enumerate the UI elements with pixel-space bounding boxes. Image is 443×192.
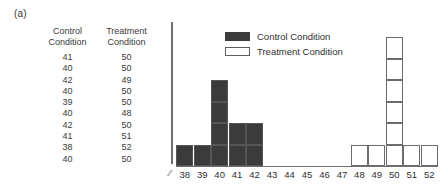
table-row: 40 48 (38, 108, 156, 119)
histogram-column (386, 37, 403, 166)
histogram-column (211, 80, 228, 166)
table-row: 40 50 (38, 154, 156, 165)
histogram-cell (246, 145, 263, 167)
histogram-column (229, 123, 246, 166)
column-header-treatment-line2: Condition (97, 37, 156, 48)
table-row: 38 52 (38, 142, 156, 153)
cell-treatment: 50 (97, 52, 156, 63)
x-tick-label: 50 (389, 169, 400, 180)
column-header-control-line2: Condition (38, 37, 97, 48)
x-tick-label: 41 (232, 169, 243, 180)
table-row: 41 50 (38, 52, 156, 63)
histogram-cell (211, 102, 228, 124)
histogram-cell (386, 80, 403, 102)
histogram-cell (386, 59, 403, 81)
histogram-column (246, 123, 263, 166)
histogram-cell (403, 145, 420, 167)
table-row: 39 50 (38, 97, 156, 108)
x-axis-tick-labels: 383940414243444546474849505152 (176, 169, 438, 183)
x-tick-label: 48 (354, 169, 365, 180)
data-table: Control Condition Treatment Condition 41… (38, 26, 156, 165)
histogram-cell (386, 37, 403, 59)
cell-treatment: 52 (97, 142, 156, 153)
column-header-treatment-line1: Treatment (97, 26, 156, 37)
x-tick-label: 51 (407, 169, 418, 180)
chart-legend: Control Condition Treatment Condition (225, 30, 343, 60)
histogram-cell (351, 145, 368, 167)
cell-control: 41 (38, 52, 97, 63)
cell-control: 41 (38, 131, 97, 142)
histogram-cell (368, 145, 385, 167)
table-header-row: Control Condition Treatment Condition (38, 26, 156, 47)
x-tick-label: 38 (179, 169, 190, 180)
cell-control: 42 (38, 120, 97, 131)
legend-label-control: Control Condition (257, 32, 330, 42)
cell-treatment: 50 (97, 86, 156, 97)
column-header-control: Control Condition (38, 26, 97, 47)
histogram-cell (246, 123, 263, 145)
x-tick-label: 39 (197, 169, 208, 180)
histogram-cell (211, 123, 228, 145)
histogram-cell (229, 123, 246, 145)
histogram-cell (386, 102, 403, 124)
cell-treatment: 49 (97, 75, 156, 86)
x-tick-label: 42 (249, 169, 260, 180)
x-tick-label: 47 (337, 169, 348, 180)
histogram-column (368, 145, 385, 167)
histogram-column (194, 145, 211, 167)
x-tick-label: 45 (302, 169, 313, 180)
cell-treatment: 50 (97, 63, 156, 74)
histogram-cell (176, 145, 193, 167)
histogram-column (351, 145, 368, 167)
cell-control: 40 (38, 154, 97, 165)
x-tick-label: 49 (372, 169, 383, 180)
axis-break-icon: // (166, 168, 171, 178)
legend-item-treatment: Treatment Condition (225, 45, 343, 58)
cell-treatment: 51 (97, 131, 156, 142)
x-tick-label: 46 (319, 169, 330, 180)
cell-control: 40 (38, 86, 97, 97)
legend-swatch-control-icon (225, 32, 250, 41)
histogram-cell (211, 80, 228, 102)
column-header-treatment: Treatment Condition (97, 26, 156, 47)
legend-swatch-treatment-icon (225, 47, 250, 56)
column-header-control-line1: Control (38, 26, 97, 37)
legend-item-control: Control Condition (225, 30, 343, 43)
x-tick-label: 40 (214, 169, 225, 180)
histogram-column (403, 145, 420, 167)
histogram-column (421, 145, 438, 167)
table-row: 41 51 (38, 131, 156, 142)
histogram-cell (229, 145, 246, 167)
y-axis-line (171, 22, 173, 164)
histogram-cell (211, 145, 228, 167)
histogram-cell (421, 145, 438, 167)
histogram-cell (386, 145, 403, 167)
table-row: 40 50 (38, 63, 156, 74)
histogram-cell (386, 123, 403, 145)
panel-label: (a) (14, 8, 27, 19)
cell-treatment: 50 (97, 154, 156, 165)
cell-control: 40 (38, 108, 97, 119)
histogram-column (176, 145, 193, 167)
cell-control: 40 (38, 63, 97, 74)
cell-control: 39 (38, 97, 97, 108)
cell-treatment: 50 (97, 120, 156, 131)
histogram-cell (194, 145, 211, 167)
cell-treatment: 48 (97, 108, 156, 119)
histogram-chart: // 383940414243444546474849505152 Contro… (168, 18, 440, 180)
x-tick-label: 52 (424, 169, 435, 180)
table-body: 41 50 40 50 42 49 40 50 39 50 40 48 42 5… (38, 52, 156, 165)
cell-control: 42 (38, 75, 97, 86)
x-tick-label: 43 (267, 169, 278, 180)
legend-label-treatment: Treatment Condition (257, 47, 343, 57)
table-row: 42 50 (38, 120, 156, 131)
table-row: 40 50 (38, 86, 156, 97)
x-tick-label: 44 (284, 169, 295, 180)
cell-control: 38 (38, 142, 97, 153)
table-row: 42 49 (38, 75, 156, 86)
cell-treatment: 50 (97, 97, 156, 108)
